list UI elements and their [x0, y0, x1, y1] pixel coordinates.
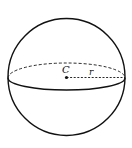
- front-equator-arc: [8, 78, 125, 90]
- center-point: [65, 76, 68, 79]
- center-label: C: [62, 64, 70, 75]
- sphere-diagram: C r: [0, 0, 132, 148]
- radius-label: r: [89, 67, 94, 77]
